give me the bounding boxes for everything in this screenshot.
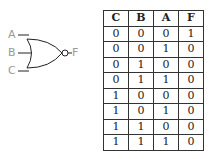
cell: 0 bbox=[129, 42, 154, 58]
cell: 0 bbox=[179, 73, 204, 89]
cell: 1 bbox=[104, 88, 129, 104]
cell: 0 bbox=[104, 26, 129, 42]
table-row: 0 0 1 0 bbox=[104, 42, 204, 58]
table-row: 0 1 0 0 bbox=[104, 57, 204, 73]
cell: 0 bbox=[179, 42, 204, 58]
table-header-row: C B A F bbox=[104, 11, 204, 27]
cell: 1 bbox=[104, 104, 129, 120]
cell: 0 bbox=[179, 57, 204, 73]
cell: 1 bbox=[129, 119, 154, 135]
cell: 1 bbox=[154, 104, 179, 120]
cell: 1 bbox=[104, 135, 129, 151]
cell: 1 bbox=[154, 42, 179, 58]
cell: 0 bbox=[179, 104, 204, 120]
cell: 0 bbox=[154, 57, 179, 73]
cell: 1 bbox=[179, 26, 204, 42]
cell: 0 bbox=[179, 88, 204, 104]
cell: 0 bbox=[179, 119, 204, 135]
cell: 1 bbox=[154, 135, 179, 151]
cell: 1 bbox=[104, 119, 129, 135]
table-row: 0 0 0 1 bbox=[104, 26, 204, 42]
header-a: A bbox=[154, 11, 179, 27]
table-row: 1 0 1 0 bbox=[104, 104, 204, 120]
cell: 0 bbox=[129, 88, 154, 104]
table-row: 1 0 0 0 bbox=[104, 88, 204, 104]
cell: 1 bbox=[129, 57, 154, 73]
input-a-label: A bbox=[8, 29, 16, 40]
cell: 0 bbox=[104, 42, 129, 58]
cell: 0 bbox=[129, 26, 154, 42]
cell: 0 bbox=[154, 88, 179, 104]
cell: 0 bbox=[104, 57, 129, 73]
input-c-label: C bbox=[8, 65, 16, 76]
table-row: 0 1 1 0 bbox=[104, 73, 204, 89]
cell: 1 bbox=[129, 73, 154, 89]
header-f: F bbox=[179, 11, 204, 27]
cell: 1 bbox=[129, 135, 154, 151]
output-f-label: F bbox=[72, 47, 78, 58]
cell: 0 bbox=[104, 73, 129, 89]
table-row: 1 1 1 0 bbox=[104, 135, 204, 151]
cell: 1 bbox=[154, 73, 179, 89]
cell: 0 bbox=[179, 135, 204, 151]
input-b-label: B bbox=[8, 47, 16, 58]
table-row: 1 1 0 0 bbox=[104, 119, 204, 135]
header-c: C bbox=[104, 11, 129, 27]
nor-gate-diagram: A B C F bbox=[0, 0, 100, 80]
cell: 0 bbox=[129, 104, 154, 120]
header-b: B bbox=[129, 11, 154, 27]
cell: 0 bbox=[154, 26, 179, 42]
cell: 0 bbox=[154, 119, 179, 135]
truth-table: C B A F 0 0 0 1 0 0 1 0 0 1 0 0 0 1 1 0 … bbox=[103, 10, 204, 151]
